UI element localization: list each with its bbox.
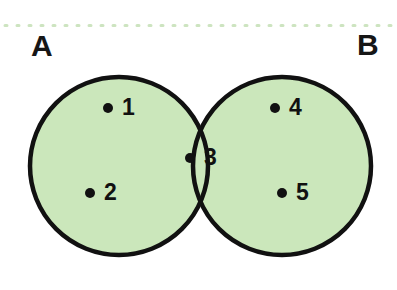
venn-element-3: 3 bbox=[185, 146, 217, 169]
venn-diagram-figure: A B 1 2 3 4 5 bbox=[0, 0, 397, 290]
member-label: 5 bbox=[296, 181, 309, 204]
venn-element-5: 5 bbox=[277, 181, 309, 204]
venn-element-4: 4 bbox=[270, 96, 302, 119]
set-label-b: B bbox=[357, 30, 379, 60]
member-dot-icon bbox=[85, 188, 95, 198]
member-dot-icon bbox=[103, 103, 113, 113]
member-dot-icon bbox=[270, 103, 280, 113]
venn-circles-svg bbox=[0, 0, 397, 290]
venn-element-2: 2 bbox=[85, 181, 117, 204]
member-label: 1 bbox=[122, 96, 135, 119]
member-label: 4 bbox=[289, 96, 302, 119]
member-dot-icon bbox=[185, 153, 195, 163]
set-label-a: A bbox=[31, 31, 53, 61]
member-label: 2 bbox=[104, 181, 117, 204]
member-label: 3 bbox=[204, 146, 217, 169]
venn-element-1: 1 bbox=[103, 96, 135, 119]
member-dot-icon bbox=[277, 188, 287, 198]
